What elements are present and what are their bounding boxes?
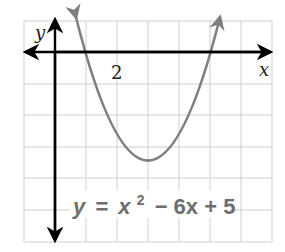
x-axis-label: x: [259, 59, 269, 80]
graph: y x 2 y = x 2 − 6x + 5: [0, 0, 285, 252]
y-axis-label: y: [34, 22, 46, 43]
tick-label-2: 2: [111, 62, 122, 83]
